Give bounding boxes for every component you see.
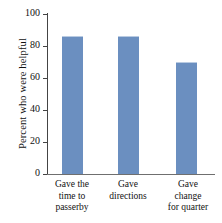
y-tick-label: 0 [35,167,40,179]
x-category-line: time to [44,191,100,203]
y-tick-20: 20 [0,142,47,143]
y-tick-label: 40 [30,103,40,115]
x-category-line: passerby [44,202,100,214]
y-tick-mark [43,142,47,143]
x-category-line: Gave the [44,179,100,191]
y-tick-mark [43,174,47,175]
y-tick-label: 20 [30,135,40,147]
bar-chart: Percent who were helpful 0 20 40 60 80 1… [0,0,222,223]
x-category-label-0: Gave the time to passerby [44,179,100,214]
y-axis-line [47,13,48,175]
y-tick-0: 0 [0,174,47,175]
y-tick-label: 80 [30,39,40,51]
x-category-line: Gave [100,179,156,191]
y-tick-40: 40 [0,110,47,111]
y-tick-60: 60 [0,78,47,79]
x-axis-line [47,174,215,175]
x-category-line: change [158,191,218,203]
y-tick-mark [43,110,47,111]
y-tick-label: 100 [25,7,40,19]
y-tick-mark [43,78,47,79]
y-tick-100: 100 [0,14,47,15]
y-tick-mark [43,46,47,47]
y-tick-label: 60 [30,71,40,83]
bar-0 [62,36,83,174]
y-tick-mark [43,14,47,15]
x-category-line: Gave [158,179,218,191]
y-axis-title: Percent who were helpful [17,14,28,174]
bar-1 [118,36,139,174]
x-category-line: directions [100,191,156,203]
bar-2 [176,62,197,174]
y-tick-80: 80 [0,46,47,47]
x-category-line: for quarter [158,202,218,214]
x-category-label-2: Gave change for quarter [158,179,218,214]
x-category-label-1: Gave directions [100,179,156,202]
